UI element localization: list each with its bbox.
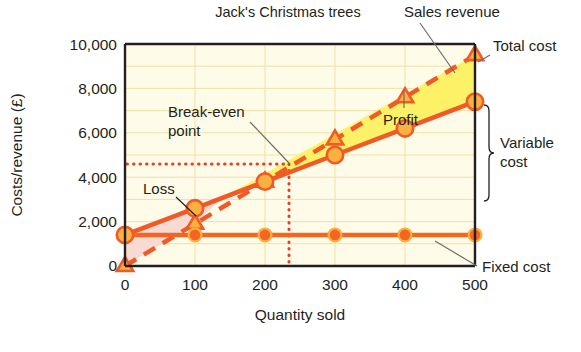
y-tick-10000: 10,000 [70, 36, 118, 53]
y-tick-4000: 4,000 [78, 169, 117, 186]
x-tick-400: 400 [392, 276, 418, 293]
profit-label: Profit [383, 111, 419, 128]
breakeven-label-line1: Break-even [168, 103, 245, 120]
y-axis-title: Costs/revenue (£) [8, 93, 25, 216]
x-tick-300: 300 [322, 276, 348, 293]
break-even-chart: 10,000 8,000 6,000 4,000 2,000 0 0 100 2… [0, 0, 581, 352]
x-tick-0: 0 [121, 276, 130, 293]
x-tick-500: 500 [462, 276, 488, 293]
loss-label: Loss [143, 180, 175, 197]
chart-title: Jack's Christmas trees [215, 4, 360, 20]
x-tick-200: 200 [252, 276, 278, 293]
sales-revenue-label: Sales revenue [404, 3, 500, 20]
total-cost-label: Total cost [493, 37, 557, 54]
x-axis-title: Quantity sold [255, 306, 345, 323]
fixed-cost-label: Fixed cost [482, 258, 551, 275]
breakeven-label-line2: point [168, 122, 201, 139]
x-tick-100: 100 [182, 276, 208, 293]
y-tick-8000: 8,000 [78, 80, 117, 97]
y-tick-2000: 2,000 [78, 213, 117, 230]
variable-cost-label-line1: Variable [500, 134, 554, 151]
y-tick-6000: 6,000 [78, 124, 117, 141]
chart-figure: 10,000 8,000 6,000 4,000 2,000 0 0 100 2… [0, 0, 581, 352]
y-tick-0: 0 [108, 257, 117, 274]
variable-cost-label-line2: cost [500, 153, 528, 170]
